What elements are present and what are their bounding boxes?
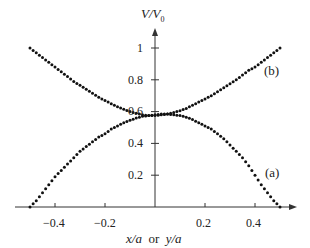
data-point-b xyxy=(113,104,116,107)
data-point-b xyxy=(54,66,57,69)
data-point-a xyxy=(119,123,122,126)
data-point-b xyxy=(57,68,60,71)
data-point-a xyxy=(107,130,110,133)
data-point-b xyxy=(119,107,122,110)
y-tick-label: 0.2 xyxy=(128,168,143,183)
data-point-a xyxy=(229,143,232,146)
y-axis-label: V/V0 xyxy=(141,6,165,24)
data-point-a xyxy=(63,166,66,169)
data-point-a xyxy=(85,145,88,148)
data-point-b xyxy=(122,108,125,111)
data-point-a xyxy=(29,206,32,209)
data-point-a xyxy=(188,117,191,120)
data-point-a xyxy=(244,160,247,163)
data-point-a xyxy=(79,150,82,153)
data-point-a xyxy=(97,136,100,139)
data-point-b xyxy=(38,54,41,57)
data-point-b xyxy=(275,49,278,52)
data-point-a xyxy=(232,147,235,150)
data-point-a xyxy=(122,121,125,124)
data-point-b xyxy=(204,97,207,100)
data-point-b xyxy=(47,61,50,64)
data-point-b xyxy=(163,113,166,116)
data-point-b xyxy=(104,99,107,102)
y-tick-label: 0.6 xyxy=(128,104,143,119)
data-point-b xyxy=(272,51,275,54)
data-point-b xyxy=(216,90,219,93)
data-point-a xyxy=(219,135,222,138)
data-point-b xyxy=(157,114,160,117)
data-point-b xyxy=(169,112,172,115)
data-point-b xyxy=(175,110,178,113)
data-point-a xyxy=(72,156,75,159)
data-point-a xyxy=(113,126,116,129)
data-point-a xyxy=(125,120,128,123)
data-point-b xyxy=(116,105,119,108)
data-point-b xyxy=(66,75,69,78)
data-point-b xyxy=(32,49,35,52)
data-point-a xyxy=(94,138,97,141)
data-point-a xyxy=(204,124,207,127)
data-point-a xyxy=(41,191,44,194)
data-point-b xyxy=(232,80,235,83)
data-point-a xyxy=(44,187,47,190)
data-point-b xyxy=(182,108,185,111)
data-point-a xyxy=(275,202,278,205)
data-point-b xyxy=(279,47,282,50)
data-point-a xyxy=(235,150,238,153)
y-tick-label: 0.4 xyxy=(128,136,143,151)
data-point-a xyxy=(213,130,216,133)
data-point-b xyxy=(207,96,210,99)
data-point-b xyxy=(194,102,197,105)
data-point-b xyxy=(35,51,38,54)
data-point-a xyxy=(247,164,250,167)
data-point-a xyxy=(272,199,275,202)
chart-plot-area xyxy=(0,0,310,248)
data-point-a xyxy=(210,128,213,131)
data-point-b xyxy=(75,82,78,85)
data-point-b xyxy=(160,113,163,116)
data-point-a xyxy=(191,118,194,121)
data-point-b xyxy=(88,90,91,93)
data-point-a xyxy=(35,199,38,202)
data-point-a xyxy=(257,178,260,181)
data-point-a xyxy=(82,147,85,150)
data-point-b xyxy=(185,107,188,110)
series-a-label: (a) xyxy=(265,165,279,181)
data-point-a xyxy=(100,134,103,137)
data-point-b xyxy=(29,47,32,50)
data-point-b xyxy=(210,94,213,97)
data-point-b xyxy=(79,84,82,87)
data-point-b xyxy=(69,78,72,81)
data-point-b xyxy=(110,102,113,105)
data-point-b xyxy=(94,94,97,97)
data-point-b xyxy=(266,56,269,59)
data-point-b xyxy=(229,82,232,85)
data-point-a xyxy=(88,143,91,146)
data-point-a xyxy=(260,183,263,186)
data-point-a xyxy=(207,126,210,129)
data-point-b xyxy=(100,97,103,100)
y-tick-label: 0.8 xyxy=(128,73,143,88)
data-point-b xyxy=(91,92,94,95)
data-point-b xyxy=(238,76,241,79)
data-point-b xyxy=(254,66,257,69)
data-point-b xyxy=(82,86,85,89)
data-point-b xyxy=(150,114,153,117)
data-point-a xyxy=(54,175,57,178)
data-point-b xyxy=(241,74,244,77)
data-point-b xyxy=(63,73,66,76)
data-point-b xyxy=(247,69,250,72)
data-point-a xyxy=(254,174,257,177)
data-point-b xyxy=(85,88,88,91)
data-point-b xyxy=(144,114,147,117)
data-point-b xyxy=(191,104,194,107)
data-point-b xyxy=(213,92,216,95)
data-point-a xyxy=(194,120,197,123)
data-point-b xyxy=(147,114,150,117)
x-axis-arrow-icon xyxy=(289,204,297,210)
data-point-a xyxy=(225,140,228,143)
data-point-a xyxy=(279,206,282,209)
data-point-b xyxy=(257,63,260,66)
data-point-a xyxy=(222,137,225,140)
